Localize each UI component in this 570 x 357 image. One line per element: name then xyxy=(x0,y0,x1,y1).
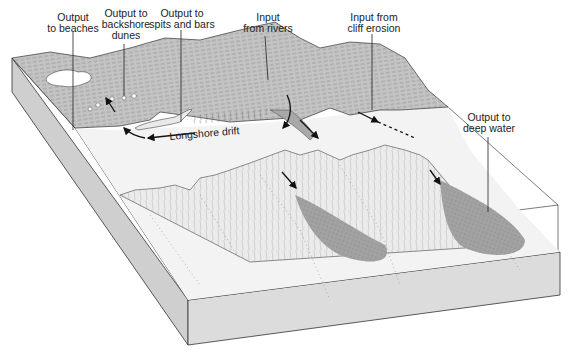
label-output-to-deep-water: Output to deep water xyxy=(462,112,516,134)
block-illustration xyxy=(0,0,570,357)
label-input-from-cliff-erosion: Input from cliff erosion xyxy=(344,12,404,34)
label-input-from-rivers: Input from rivers xyxy=(238,12,298,34)
label-output-to-spits-and-bars: Output to spits and bars xyxy=(146,8,218,30)
sediment-budget-diagram: Output to beaches Output to backshore du… xyxy=(0,0,570,357)
